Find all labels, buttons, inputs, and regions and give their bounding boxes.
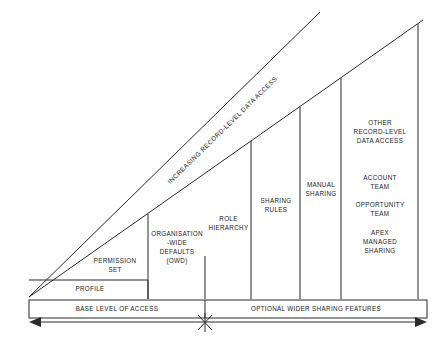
diagram-canvas: INCREASING RECORD-LEVEL DATA ACCESS PROF… (0, 0, 445, 347)
column-label-profile: PROFILE (38, 284, 142, 293)
column-label-account-team: ACCOUNT TEAM (342, 173, 418, 191)
column-label-manual-sharing: MANUAL SHARING (301, 180, 341, 198)
column-label-apex-managed-sharing: APEX MANAGED SHARING (342, 228, 418, 255)
column-label-owd: ORGANISATION -WIDE DEFAULTS (OWD) (149, 229, 205, 266)
column-label-opportunity-team: OPPORTUNITY TEAM (342, 200, 418, 218)
column-label-other-record-level-access: OTHER RECORD-LEVEL DATA ACCESS (342, 118, 418, 145)
column-label-role-hierarchy: ROLE HIERARCHY (206, 214, 251, 232)
footer-label-base-level: BASE LEVEL OF ACCESS (29, 305, 205, 312)
column-label-sharing-rules: SHARING RULES (252, 196, 300, 214)
footer-label-optional-features: OPTIONAL WIDER SHARING FEATURES (205, 305, 427, 312)
column-label-permission-set: PERMISSION SET (84, 256, 146, 274)
